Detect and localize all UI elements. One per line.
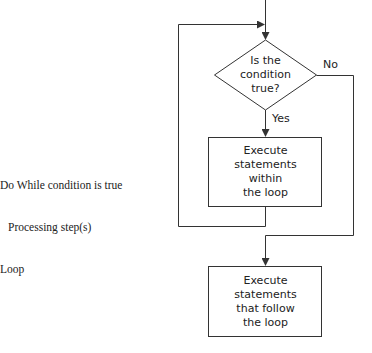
after-loop-line: statements: [209, 288, 322, 302]
after-loop-label: Execute statements that follow the loop: [209, 274, 322, 330]
decision-label: Is the condition true?: [225, 54, 306, 96]
no-label: No: [323, 58, 338, 72]
decision-line: true?: [225, 82, 306, 96]
yes-label: Yes: [272, 112, 290, 126]
decision-line: Is the: [225, 54, 306, 68]
loop-body-line: within: [209, 172, 322, 186]
loop-body-line: Execute: [209, 144, 322, 158]
after-loop-line: the loop: [209, 316, 322, 330]
loop-body-label: Execute statements within the loop: [209, 144, 322, 200]
after-loop-line: Execute: [209, 274, 322, 288]
loop-body-line: the loop: [209, 186, 322, 200]
decision-line: condition: [225, 68, 306, 82]
after-loop-line: that follow: [209, 302, 322, 316]
loop-body-line: statements: [209, 158, 322, 172]
